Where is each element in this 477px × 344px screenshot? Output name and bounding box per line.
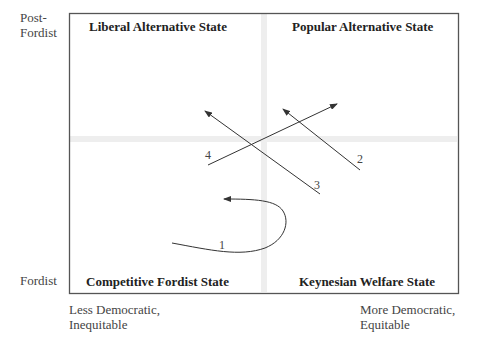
diagram-canvas xyxy=(0,0,477,344)
quadrant-top-right: Popular Alternative State xyxy=(292,19,433,35)
path-label-1: 1 xyxy=(219,238,225,253)
arrow-path-4 xyxy=(208,104,337,165)
path-label-4: 4 xyxy=(205,148,211,163)
quadrant-bottom-right: Keynesian Welfare State xyxy=(299,274,435,290)
quadrant-top-left: Liberal Alternative State xyxy=(89,19,227,35)
curve-path-1 xyxy=(172,199,286,252)
quadrant-bottom-left: Competitive Fordist State xyxy=(86,274,229,290)
path-label-3: 3 xyxy=(314,178,320,193)
path-label-2: 2 xyxy=(357,152,363,167)
